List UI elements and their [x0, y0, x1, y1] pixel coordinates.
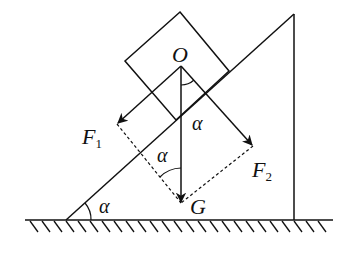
- angle-arc-top: [181, 80, 194, 85]
- force-diagram: O G F1 F2 α α α: [0, 0, 358, 253]
- label-gravity: G: [190, 194, 206, 219]
- angle-arc-g: [160, 168, 181, 177]
- label-angle-top: α: [192, 112, 203, 134]
- label-force1: F1: [81, 124, 102, 151]
- label-force2: F2: [251, 157, 272, 184]
- label-origin: O: [172, 42, 188, 67]
- angle-arc-base: [85, 203, 91, 220]
- label-angle-g: α: [157, 144, 168, 166]
- dashed-parallelogram: [117, 124, 253, 203]
- ground: [25, 220, 333, 232]
- label-angle-base: α: [99, 195, 110, 217]
